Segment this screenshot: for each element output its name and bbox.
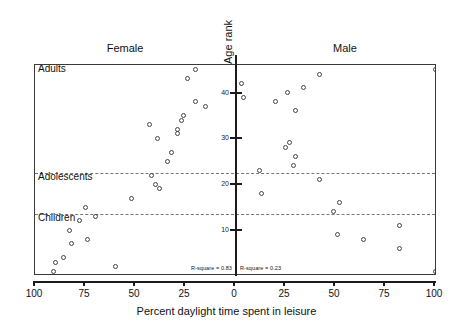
x-female-100-label: 100 — [14, 288, 54, 299]
data-point — [397, 246, 402, 251]
category-label-adults: Adults — [38, 65, 66, 74]
data-point — [317, 177, 322, 182]
data-point — [149, 173, 154, 178]
data-point — [83, 205, 88, 210]
panel-title-female: Female — [80, 42, 170, 54]
data-point — [153, 182, 158, 187]
x-male-25-label: 25 — [264, 288, 304, 299]
data-point — [93, 214, 98, 219]
x-male-100-tick — [433, 281, 435, 286]
scatter-plot-figure: Female Male Age rank AdultsAdolescentsCh… — [0, 0, 453, 321]
y-tick-40 — [230, 92, 242, 94]
data-point — [273, 99, 278, 104]
x-male-25-tick — [283, 281, 285, 286]
data-point — [293, 108, 298, 113]
data-point — [317, 72, 322, 77]
y-tick-20 — [230, 183, 242, 185]
y-tick-label-20: 20 — [209, 180, 229, 187]
plot-area: AdultsAdolescentsChildren R-square = 0.8… — [34, 64, 436, 275]
x-female-50-label: 50 — [114, 288, 154, 299]
x-male-75-label: 75 — [364, 288, 404, 299]
x-female-50-tick — [133, 281, 135, 286]
data-point — [69, 241, 74, 246]
y-tick-10 — [230, 229, 242, 231]
data-point — [179, 118, 184, 123]
data-point — [337, 200, 342, 205]
panel-title-male: Male — [300, 42, 390, 54]
y-tick-label-40: 40 — [209, 89, 229, 96]
data-point — [433, 269, 436, 274]
r-square-annotation-male: R-square = 0.23 — [240, 265, 281, 271]
data-point — [397, 223, 402, 228]
x-female-75-tick — [83, 281, 85, 286]
data-point — [293, 154, 298, 159]
data-point — [283, 145, 288, 150]
data-point — [433, 67, 436, 72]
category-label-children: Children — [38, 212, 75, 223]
r-square-annotation-female: R-square = 0.83 — [191, 265, 232, 271]
data-point — [181, 113, 186, 118]
x-axis-line — [34, 281, 436, 283]
data-point — [77, 218, 82, 223]
data-point — [331, 209, 336, 214]
data-point — [335, 232, 340, 237]
x-male-75-tick — [383, 281, 385, 286]
data-point — [257, 168, 262, 173]
data-point — [301, 85, 306, 90]
data-point — [361, 237, 366, 242]
y-tick-label-30: 30 — [209, 134, 229, 141]
x-female-0-label: 0 — [214, 288, 254, 299]
data-point — [85, 237, 90, 242]
data-point — [53, 260, 58, 265]
data-point — [193, 99, 198, 104]
data-point — [51, 269, 56, 274]
data-point — [239, 81, 244, 86]
data-point — [147, 122, 152, 127]
x-male-50-label: 50 — [314, 288, 354, 299]
x-axis-title: Percent daylight time spent in leisure — [0, 305, 453, 317]
data-point — [61, 255, 66, 260]
data-point — [175, 127, 180, 132]
data-point — [193, 67, 198, 72]
data-point — [165, 159, 170, 164]
data-point — [113, 264, 118, 269]
y-tick-30 — [230, 137, 242, 139]
category-label-adolescents: Adolescents — [38, 171, 92, 182]
x-male-50-tick — [333, 281, 335, 286]
y-tick-label-10: 10 — [209, 226, 229, 233]
x-female-0-tick — [233, 281, 235, 286]
data-point — [157, 186, 162, 191]
data-point — [241, 95, 246, 100]
data-point — [175, 131, 180, 136]
data-point — [155, 136, 160, 141]
y-axis-title: Age rank — [222, 4, 236, 64]
data-point — [285, 90, 290, 95]
data-point — [185, 76, 190, 81]
x-female-25-tick — [183, 281, 185, 286]
x-female-25-label: 25 — [164, 288, 204, 299]
data-point — [259, 191, 264, 196]
data-point — [129, 196, 134, 201]
data-point — [203, 104, 208, 109]
x-female-100-tick — [33, 281, 35, 286]
x-female-75-label: 75 — [64, 288, 104, 299]
center-age-rank-axis — [235, 55, 237, 276]
data-point — [291, 163, 296, 168]
data-point — [169, 150, 174, 155]
data-point — [67, 228, 72, 233]
x-male-100-label: 100 — [414, 288, 453, 299]
